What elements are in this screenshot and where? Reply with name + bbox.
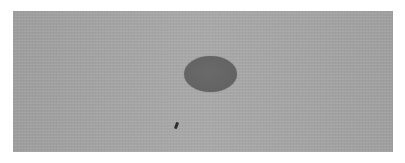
dark-oval-spot xyxy=(184,56,237,92)
small-dark-speck xyxy=(174,122,179,130)
photograph xyxy=(13,11,393,152)
